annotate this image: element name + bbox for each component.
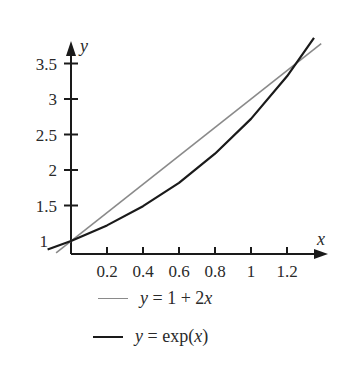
legend-swatch-exp bbox=[93, 336, 123, 338]
x-tick-label: 0.8 bbox=[204, 262, 225, 281]
y-axis-label: y bbox=[78, 36, 88, 56]
x-tick-label: 1 bbox=[247, 262, 256, 281]
legend-label-exp: y = exp(x) bbox=[135, 326, 208, 347]
x-tick-label: 0.6 bbox=[168, 262, 189, 281]
chart-plot: xy0.20.40.60.811.211.522.533.5 bbox=[0, 0, 342, 377]
legend-item-exp: y = exp(x) bbox=[93, 326, 208, 347]
legend-item-linear: y = 1 + 2x bbox=[98, 288, 212, 309]
series-exp bbox=[48, 38, 314, 250]
y-axis-arrow-icon bbox=[66, 41, 76, 56]
series-linear bbox=[56, 44, 321, 253]
x-tick-label: 1.2 bbox=[276, 262, 297, 281]
x-axis-label: x bbox=[316, 229, 325, 249]
y-tick-label: 1 bbox=[40, 232, 49, 251]
y-tick-label: 2.5 bbox=[36, 126, 57, 145]
x-tick-label: 0.2 bbox=[96, 262, 117, 281]
y-tick-label: 1.5 bbox=[36, 197, 57, 216]
legend-label-linear: y = 1 + 2x bbox=[140, 288, 212, 309]
y-tick-label: 3.5 bbox=[36, 55, 57, 74]
y-tick-label: 3 bbox=[49, 90, 58, 109]
x-tick-label: 0.4 bbox=[132, 262, 154, 281]
legend-swatch-linear bbox=[98, 298, 128, 299]
x-axis-arrow-icon bbox=[314, 249, 328, 259]
y-tick-label: 2 bbox=[49, 161, 58, 180]
